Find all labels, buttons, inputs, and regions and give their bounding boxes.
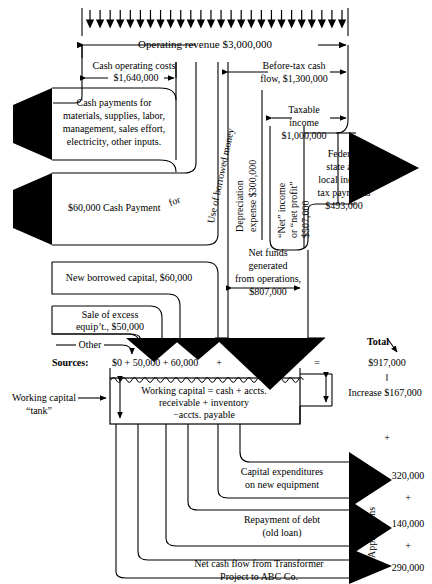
tank-contents-line-1: Working capital = cash + accts.	[114, 385, 294, 396]
interest-payment-label: $60,000 Cash Payment	[68, 202, 161, 213]
app-pipe-3-top	[138, 424, 350, 560]
application-3-amount: 290,000	[384, 562, 432, 573]
applications-label: Applications	[366, 507, 377, 558]
taxable-line-2: income	[276, 117, 332, 128]
application-2-connector: +	[384, 540, 432, 551]
cash-payments-bot-elbow	[160, 160, 176, 172]
app-pipe-1-top	[240, 424, 350, 462]
total-word: Total	[358, 336, 398, 347]
other-label: Other	[76, 339, 104, 350]
funds-flow-diagram: Operating revenue $3,000,000 Cash operat…	[0, 0, 432, 584]
before-tax-line-2: flow, $1,300,000	[248, 73, 340, 84]
net-funds-line-1: Net funds	[232, 247, 304, 258]
application-1-line-1: Capital expenditures	[214, 466, 350, 477]
tank-caller-line-2: “tank”	[14, 405, 64, 416]
double-bar: ‖	[350, 372, 424, 383]
application-2-amount: 140,000	[384, 518, 432, 529]
sale-excess-line-2: equip’t., $50,000	[54, 321, 166, 332]
sources-expression: $0 + 50,000 + 60,000	[112, 357, 198, 368]
diagram-vector-layer	[0, 0, 432, 584]
interest-payment-arrowhead	[13, 173, 52, 245]
interest-payment-top-elbow	[184, 163, 196, 173]
application-1-connector: +	[384, 492, 432, 503]
cash-payments-line-3: management, sales effort,	[52, 123, 176, 134]
net-income-line-2: or “net profit”	[288, 181, 299, 238]
revenue-inflow-arrows	[87, 10, 345, 27]
taxes-line-3: local income	[306, 174, 382, 185]
tank-caller-line-1: Working capital	[2, 392, 76, 403]
net-funds-line-4: $807,000	[232, 286, 304, 297]
taxes-line-1: Federal,	[310, 148, 378, 159]
interest-payment-bot-elbow	[206, 234, 218, 245]
cash-operating-costs-label-1: Cash operating costs	[86, 60, 182, 71]
net-funds-line-2: generated	[232, 260, 304, 271]
other-leader-arrow	[122, 345, 132, 354]
net-funds-line-3: from operations,	[224, 273, 312, 284]
tank-contents-line-3: −accts. payable	[114, 409, 294, 420]
sources-label: Sources:	[52, 357, 88, 368]
trunk-left-elbow	[53, 45, 82, 103]
application-3-line-2: Project to ABC Co.	[168, 571, 350, 582]
application-3-line-1: Net cash flow from Transformer	[168, 558, 350, 569]
application-2-line-1: Repayment of debt	[214, 514, 350, 525]
sources-operations-amount: 807,000	[238, 357, 294, 368]
sale-excess-line-1: Sale of excess	[58, 309, 162, 320]
operating-revenue-label: Operating revenue $3,000,000	[135, 38, 275, 50]
cash-payments-line-1: Cash payments for	[54, 97, 174, 108]
application-1-amount: 320,000	[384, 470, 432, 481]
application-2-line-2: (old loan)	[214, 527, 350, 538]
cash-operating-costs-amount: $1,640,000	[108, 72, 164, 83]
new-borrowed-capital-label: New borrowed capital, $60,000	[56, 272, 202, 283]
total-amount: $917,000	[350, 357, 424, 368]
application-1-line-2: on new equipment	[214, 479, 350, 490]
taxable-line-3: $1,000,000	[268, 130, 340, 141]
sources-plus: +	[212, 357, 226, 368]
cash-payments-line-4: electricity, other inputs.	[52, 136, 176, 147]
app-pipe-3-bottom	[116, 424, 350, 578]
sources-equals: =	[310, 357, 324, 368]
taxes-line-5: $493,000	[310, 200, 378, 211]
cash-payments-line-2: materials, supplies, labor,	[52, 110, 176, 121]
cash-payments-arrowhead	[13, 88, 52, 160]
tank-contents-line-2: receivable + inventory	[114, 397, 294, 408]
taxable-line-1: Taxable	[276, 104, 332, 115]
taxes-line-2: state and	[310, 161, 378, 172]
net-income-line-1: “Net” income	[276, 183, 287, 238]
plus-below-increase: +	[350, 432, 424, 443]
depreciation-amount: expense $300,000	[247, 160, 258, 232]
depreciation-label: Depreciation	[234, 180, 245, 232]
taxes-line-4: tax payments	[304, 187, 384, 198]
increase-label: Increase $167,000	[338, 387, 432, 398]
before-tax-line-1: Before-tax cash	[248, 60, 340, 71]
